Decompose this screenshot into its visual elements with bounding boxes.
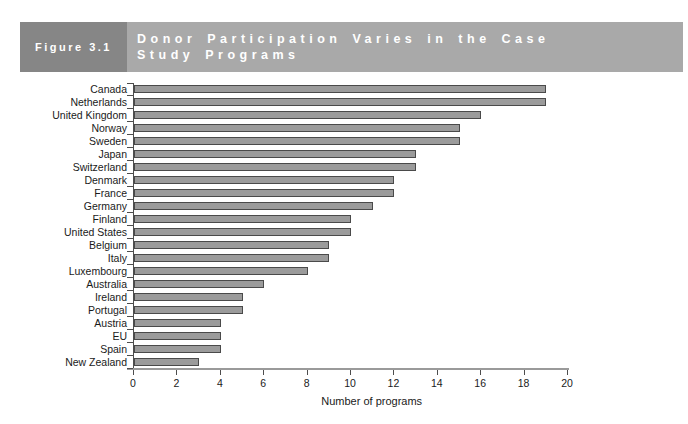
figure-header: Figure 3.1 Donor Participation Varies in… (20, 22, 683, 72)
bar (134, 215, 351, 223)
bar-row: Canada (134, 83, 568, 96)
x-axis-tick (220, 370, 221, 375)
bar-row: Netherlands (134, 96, 568, 109)
y-axis-label: Norway (91, 122, 127, 134)
y-axis-tick (127, 121, 133, 122)
y-axis-tick (127, 212, 133, 213)
y-axis-tick (127, 342, 133, 343)
y-axis-tick (127, 290, 133, 291)
bar (134, 306, 243, 314)
y-axis-tick (127, 316, 133, 317)
bar (134, 124, 460, 132)
y-axis-tick (127, 108, 133, 109)
y-axis-label: Luxembourg (69, 265, 127, 277)
y-axis-tick (127, 238, 133, 239)
bar-row: Sweden (134, 135, 568, 148)
y-axis-tick (127, 199, 133, 200)
x-axis-tick (307, 370, 308, 375)
figure-title: Donor Participation Varies in the Case S… (127, 22, 683, 72)
bar-row: Japan (134, 148, 568, 161)
bar-row: Italy (134, 251, 568, 264)
bar-row: Ireland (134, 290, 568, 303)
y-axis-label: France (94, 187, 127, 199)
bar-row: Australia (134, 277, 568, 290)
bar (134, 176, 394, 184)
x-axis-tick-label: 10 (344, 377, 356, 389)
bar (134, 137, 460, 145)
bar-row: Norway (134, 122, 568, 135)
bar (134, 228, 351, 236)
bar (134, 241, 329, 249)
y-axis-tick (127, 355, 133, 356)
y-axis-tick (127, 251, 133, 252)
x-axis-tick (263, 370, 264, 375)
y-axis-tick (127, 368, 133, 369)
bar (134, 98, 546, 106)
y-axis-label: Germany (84, 200, 127, 212)
bar (134, 358, 199, 366)
plot-area: Number of programs CanadaNetherlandsUnit… (133, 83, 567, 368)
x-axis-tick (524, 370, 525, 375)
y-axis-tick (127, 160, 133, 161)
bar (134, 293, 243, 301)
y-axis-tick (127, 329, 133, 330)
y-axis-label: Austria (94, 317, 127, 329)
bar (134, 189, 394, 197)
bar-row: Denmark (134, 174, 568, 187)
y-axis-label: Netherlands (70, 96, 127, 108)
y-axis-label: Finland (93, 213, 127, 225)
x-axis-title: Number of programs (321, 395, 422, 407)
bar (134, 85, 546, 93)
x-axis-tick-label: 16 (474, 377, 486, 389)
x-axis-line (127, 368, 569, 370)
y-axis-label: Sweden (89, 135, 127, 147)
y-axis-tick (127, 225, 133, 226)
y-axis-label: Italy (108, 252, 127, 264)
x-axis-tick-label: 4 (217, 377, 223, 389)
y-axis-label: Ireland (95, 291, 127, 303)
y-axis-tick (127, 264, 133, 265)
bar-row: Belgium (134, 238, 568, 251)
figure-panel: Figure 3.1 Donor Participation Varies in… (0, 0, 688, 424)
x-axis-tick-label: 8 (304, 377, 310, 389)
bar (134, 111, 481, 119)
bar-row: France (134, 187, 568, 200)
y-axis-label: Spain (100, 343, 127, 355)
bar-row: United States (134, 226, 568, 239)
bar (134, 163, 416, 171)
y-axis-label: United Kingdom (52, 109, 127, 121)
y-axis-label: Portugal (88, 304, 127, 316)
x-axis-tick (133, 370, 134, 375)
x-axis-tick (176, 370, 177, 375)
figure-title-line2: Study Programs (137, 47, 663, 63)
x-axis-tick-label: 14 (431, 377, 443, 389)
y-axis-label: New Zealand (65, 356, 127, 368)
x-axis-tick (350, 370, 351, 375)
y-axis-tick (127, 83, 133, 84)
x-axis-tick-label: 0 (130, 377, 136, 389)
bar (134, 150, 416, 158)
y-axis-tick (127, 173, 133, 174)
y-axis-label: Belgium (89, 239, 127, 251)
bar (134, 267, 308, 275)
bar-row: New Zealand (134, 355, 568, 368)
bar (134, 280, 264, 288)
bar (134, 202, 373, 210)
y-axis-label: Canada (90, 83, 127, 95)
y-axis-label: Australia (86, 278, 127, 290)
bar-row: Switzerland (134, 161, 568, 174)
y-axis-label: Switzerland (73, 161, 127, 173)
y-axis-label: EU (112, 330, 127, 342)
bar (134, 332, 221, 340)
bar-row: Portugal (134, 303, 568, 316)
bar (134, 345, 221, 353)
x-axis-tick (393, 370, 394, 375)
x-axis-tick (567, 370, 568, 375)
x-axis-tick-label: 20 (561, 377, 573, 389)
figure-number-label: Figure 3.1 (20, 22, 127, 72)
x-axis-tick-label: 6 (260, 377, 266, 389)
bar-row: Finland (134, 213, 568, 226)
x-axis-tick-label: 18 (518, 377, 530, 389)
bar (134, 319, 221, 327)
x-axis-tick-label: 2 (173, 377, 179, 389)
